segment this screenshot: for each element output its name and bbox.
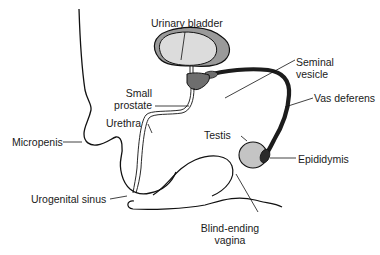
label-small-prostate-line2: prostate [108,99,152,111]
label-epididymis: Epididymis [298,153,349,165]
label-vas-deferens: Vas deferens [314,92,375,104]
label-blind-ending-vagina-line1: Blind-ending [190,222,270,234]
anatomy-diagram [0,0,380,255]
label-seminal-vesicle-line1: Seminal [296,56,334,68]
small-prostate [187,73,209,90]
label-testis: Testis [204,129,231,141]
urogenital-sinus [128,198,282,209]
label-seminal-vesicle-line2: vesicle [296,68,334,80]
label-small-prostate-line1: Small [108,87,152,99]
label-micropenis: Micropenis [12,136,63,148]
urinary-bladder [154,27,229,66]
label-seminal-vesicle: Seminal vesicle [296,56,334,80]
label-blind-ending-vagina-line2: vagina [190,234,270,246]
label-urethra: Urethra [106,117,141,129]
label-urogenital-sinus: Urogenital sinus [31,193,106,205]
label-small-prostate: Small prostate [108,87,152,111]
blind-ending-vagina [153,156,233,196]
label-blind-ending-vagina: Blind-ending vagina [190,222,270,246]
label-urinary-bladder: Urinary bladder [151,17,223,29]
